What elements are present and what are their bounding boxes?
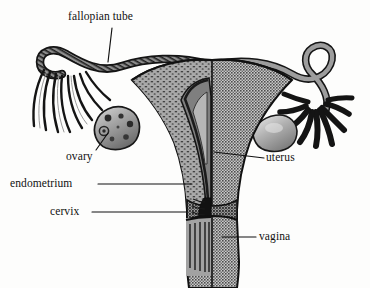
label-vagina: vagina <box>259 231 290 243</box>
leader-fallopian-tube <box>108 28 112 62</box>
vagina-group <box>186 216 239 288</box>
female-reproductive-system-illustration <box>0 0 370 288</box>
vaginal-rugae-group <box>186 217 212 282</box>
label-uterus: uterus <box>266 152 295 164</box>
label-cervix: cervix <box>50 206 79 218</box>
label-fallopian-tube: fallopian tube <box>68 11 133 23</box>
label-endometrium: endometrium <box>10 178 72 190</box>
anatomy-figure: fallopian tube ovary endometrium cervix … <box>0 0 370 288</box>
label-ovary: ovary <box>66 151 93 163</box>
